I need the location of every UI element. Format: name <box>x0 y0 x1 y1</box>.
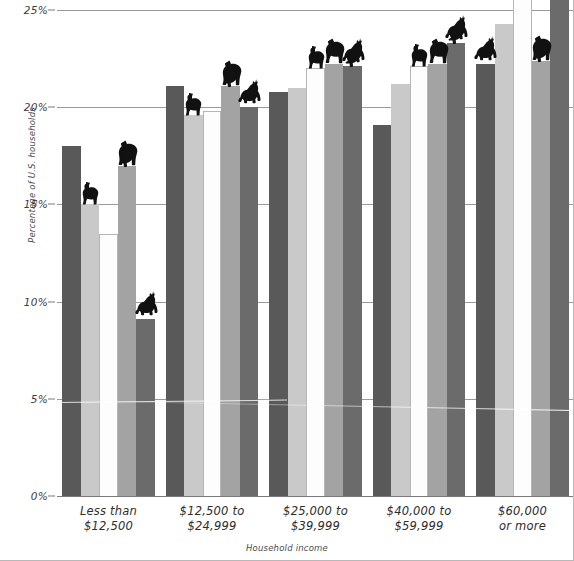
x-tick-label-group: $60,000or more <box>464 504 574 534</box>
plot-area: 0%5%10%15%20%25% <box>57 0 573 497</box>
y-axis-title: Percentage of U.S. households <box>27 65 37 285</box>
bar <box>81 204 100 496</box>
x-tick-label-line: $12,500 <box>50 519 167 534</box>
bar <box>269 92 288 496</box>
cat-icon <box>321 38 347 66</box>
bar <box>325 64 344 496</box>
bar <box>343 66 362 496</box>
bar <box>513 0 532 496</box>
bar <box>373 125 392 496</box>
cat-icon <box>114 140 140 168</box>
bar <box>410 66 429 496</box>
horse-icon <box>441 15 471 45</box>
gridline-25 <box>57 10 573 11</box>
bar <box>99 234 118 496</box>
x-tick-label-group: $12,500 to$24,999 <box>154 504 271 534</box>
x-tick-label-line: $40,000 to <box>361 504 478 519</box>
bird-icon <box>115 144 139 168</box>
bar <box>428 64 447 496</box>
x-tick-label-line: Less than <box>50 504 167 519</box>
x-axis-title: Household income <box>0 543 574 553</box>
bar <box>288 88 307 496</box>
bar <box>118 166 137 496</box>
y-tick-label: 25% <box>24 4 48 16</box>
bird-icon <box>341 44 365 68</box>
bar <box>136 319 155 496</box>
bar <box>391 84 410 496</box>
bar <box>447 43 466 496</box>
y-tick-label: 20% <box>24 101 48 113</box>
bird-icon <box>444 21 468 45</box>
bar <box>476 64 495 496</box>
x-tick-label-group: $25,000 to$39,999 <box>257 504 374 534</box>
y-tick-mark <box>48 398 55 399</box>
y-tick-mark <box>48 107 55 108</box>
y-tick-mark <box>48 301 55 302</box>
y-tick-mark <box>48 496 55 497</box>
y-tick-mark <box>48 204 55 205</box>
x-tick-label-line: $25,000 to <box>257 504 374 519</box>
gridline-0 <box>57 496 573 497</box>
x-tick-label-line: or more <box>464 519 574 534</box>
bar <box>495 24 514 496</box>
bird-icon <box>219 64 243 88</box>
y-tick-label: 5% <box>31 393 48 405</box>
x-tick-label-group: $40,000 to$59,999 <box>361 504 478 534</box>
cat-icon <box>218 60 244 88</box>
bar <box>532 61 551 496</box>
bar <box>550 0 569 496</box>
x-tick-label-line: $59,999 <box>361 519 478 534</box>
bar <box>62 146 81 496</box>
x-tick-label-line: $12,500 to <box>154 504 271 519</box>
bar <box>184 115 203 496</box>
bar <box>166 86 185 496</box>
bar <box>203 111 222 496</box>
y-tick-label: 10% <box>24 296 48 308</box>
bar <box>221 86 240 496</box>
y-tick-mark <box>48 10 55 11</box>
dog-icon <box>408 44 430 68</box>
dog-icon <box>79 182 101 206</box>
x-tick-label-line: $24,999 <box>154 519 271 534</box>
dog-icon <box>182 93 204 117</box>
bar <box>306 68 325 496</box>
x-tick-label-group: Less than$12,500 <box>50 504 167 534</box>
x-tick-label-line: $60,000 <box>464 504 574 519</box>
bar-chart-figure: Percentage of U.S. households 0%5%10%15%… <box>0 0 574 561</box>
y-tick-label: 0% <box>31 490 48 502</box>
x-tick-label-line: $39,999 <box>257 519 374 534</box>
dog-icon <box>305 46 327 70</box>
bar <box>240 107 259 496</box>
y-tick-label: 15% <box>24 198 48 210</box>
